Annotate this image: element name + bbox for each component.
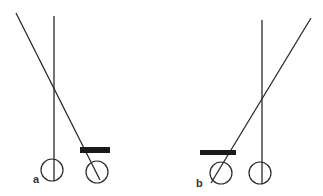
panel-label-a: a <box>33 173 40 185</box>
diagram-canvas: a b <box>0 0 323 196</box>
panel-a: a <box>16 13 110 185</box>
circle-a-left <box>41 159 63 181</box>
bar-a <box>80 147 110 153</box>
bar-b <box>200 150 236 155</box>
diagonal-line-a <box>16 13 100 180</box>
panel-label-b: b <box>196 177 203 189</box>
circle-b-right <box>249 162 271 184</box>
panel-b: b <box>196 18 311 189</box>
diagonal-line-b <box>211 18 311 183</box>
circle-a-right <box>86 161 108 183</box>
